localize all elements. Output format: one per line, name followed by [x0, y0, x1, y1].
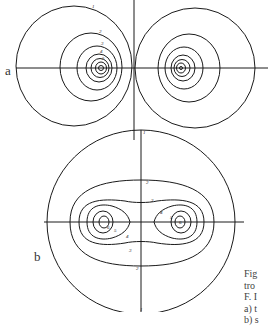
svg-text:6: 6 — [107, 225, 110, 230]
caption-line: Fig — [244, 268, 259, 280]
panel-a-left-contours — [16, 6, 132, 126]
caption-line: F. I — [244, 291, 259, 303]
contour-labels: 1 2 3 4 5 2 3 4 5 6 6 5 4 3 2 1 1 — [92, 4, 182, 312]
svg-text:4: 4 — [126, 234, 129, 239]
svg-text:2: 2 — [136, 266, 139, 271]
figure-caption: Fig tro F. I a) t b) s — [244, 268, 259, 326]
svg-text:3: 3 — [129, 248, 132, 253]
svg-text:3: 3 — [151, 198, 154, 203]
panel-a-label: a — [5, 63, 11, 79]
panel-b-label: b — [34, 249, 41, 265]
svg-text:5: 5 — [114, 228, 117, 233]
svg-text:1: 1 — [140, 307, 143, 312]
caption-line: b) s — [244, 314, 259, 326]
svg-text:2: 2 — [146, 180, 149, 185]
svg-text:1: 1 — [92, 4, 95, 9]
caption-line: a) t — [244, 303, 259, 315]
svg-text:2: 2 — [99, 29, 102, 34]
caption-line: tro — [244, 280, 259, 292]
svg-text:3: 3 — [101, 41, 104, 46]
svg-text:4: 4 — [100, 49, 103, 54]
svg-text:1: 1 — [143, 130, 146, 135]
